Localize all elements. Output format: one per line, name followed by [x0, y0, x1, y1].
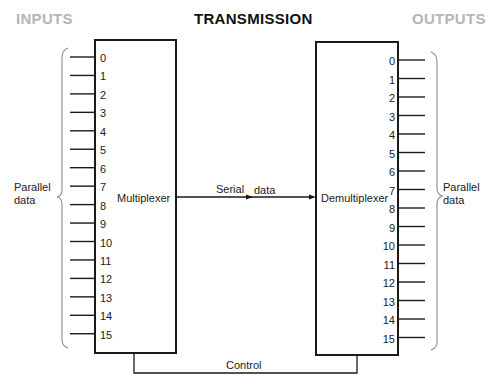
left-brace: [57, 48, 68, 348]
input-group-label-line1: Parallel: [14, 181, 51, 193]
output-pin-label: 11: [373, 259, 395, 271]
serial-data-label: data: [254, 184, 275, 196]
output-pin-label: 4: [373, 129, 395, 141]
serial-label: Serial: [216, 183, 244, 195]
input-pin-label: 0: [100, 52, 106, 64]
multiplexer-label: Multiplexer: [117, 192, 170, 204]
input-pin-label: 3: [100, 107, 106, 119]
serial-arrow-end-icon: [309, 195, 316, 200]
output-pin-label: 6: [373, 166, 395, 178]
output-group-label-line2: data: [443, 194, 464, 206]
output-pin-label: 2: [373, 92, 395, 104]
output-pin-label: 8: [373, 203, 395, 215]
input-pin-label: 12: [100, 273, 112, 285]
input-pin-label: 11: [100, 255, 111, 267]
output-lines: [398, 60, 425, 338]
output-pin-label: 7: [373, 185, 395, 197]
output-pin-label: 13: [373, 296, 395, 308]
serial-arrow-mid-icon: [246, 195, 253, 200]
output-group-label-line1: Parallel: [443, 181, 480, 193]
output-pin-label: 15: [373, 333, 395, 345]
input-pin-label: 6: [100, 163, 106, 175]
output-pin-label: 14: [373, 314, 395, 326]
input-pin-label: 7: [100, 181, 106, 193]
input-lines: [70, 57, 95, 334]
right-brace: [431, 52, 442, 350]
input-group-label-line2: data: [14, 194, 35, 206]
input-pin-label: 14: [100, 310, 112, 322]
input-pin-label: 10: [100, 237, 112, 249]
output-pin-label: 5: [373, 148, 395, 160]
output-pin-label: 12: [373, 277, 395, 289]
control-label: Control: [226, 359, 261, 371]
input-pin-label: 4: [100, 126, 106, 138]
input-pin-label: 15: [100, 329, 112, 341]
output-pin-label: 9: [373, 222, 395, 234]
output-pin-label: 10: [373, 240, 395, 252]
mux-demux-diagram: [0, 0, 491, 382]
input-pin-label: 8: [100, 200, 106, 212]
input-pin-label: 9: [100, 218, 106, 230]
input-pin-label: 2: [100, 89, 106, 101]
output-pin-label: 1: [373, 74, 395, 86]
input-pin-label: 5: [100, 144, 106, 156]
input-pin-label: 1: [100, 70, 106, 82]
output-pin-label: 0: [373, 55, 395, 67]
output-pin-label: 3: [373, 111, 395, 123]
input-pin-label: 13: [100, 292, 112, 304]
